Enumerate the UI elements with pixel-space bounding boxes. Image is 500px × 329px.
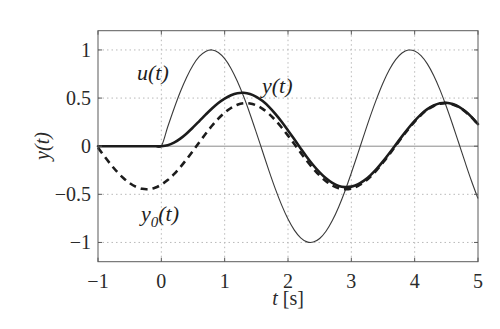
y-tick-label: 0.5 xyxy=(66,87,91,109)
x-tick-label: 3 xyxy=(346,270,356,292)
y-axis-title: y(t) xyxy=(31,132,54,162)
y-tick-label: 1 xyxy=(81,39,91,61)
x-tick-label: 5 xyxy=(473,270,483,292)
label-y0-tail: (t) xyxy=(158,201,179,226)
x-tick-label: 1 xyxy=(220,270,230,292)
x-tick-label: −1 xyxy=(87,270,108,292)
x-tick-label: 4 xyxy=(410,270,420,292)
y-tick-label: −1 xyxy=(70,231,91,253)
x-axis-title-unit: [s] xyxy=(278,287,304,309)
y-tick-label: 0 xyxy=(81,135,91,157)
label-u: u(t) xyxy=(137,60,169,85)
y-tick-label: −0.5 xyxy=(55,183,91,205)
label-y: y(t) xyxy=(260,73,293,98)
x-axis-title: t [s] xyxy=(272,287,304,309)
y-tick-labels: 10.50−0.5−1 xyxy=(55,39,91,254)
label-y0-base: y xyxy=(139,201,151,226)
x-tick-label: 0 xyxy=(156,270,166,292)
figure: −1012345 10.50−0.5−1 u(t) y(t) y0(t) y(t… xyxy=(0,0,500,329)
label-y0: y0(t) xyxy=(139,201,179,230)
